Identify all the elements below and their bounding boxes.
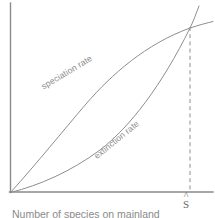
- x-axis-title: Number of species on mainland: [12, 208, 215, 218]
- species-equilibrium-figure: speciation rate extinction rate ^ S Numb…: [0, 0, 215, 218]
- extinction-rate-curve: [11, 6, 200, 193]
- plot-area: [0, 0, 215, 218]
- speciation-rate-curve: [11, 22, 214, 193]
